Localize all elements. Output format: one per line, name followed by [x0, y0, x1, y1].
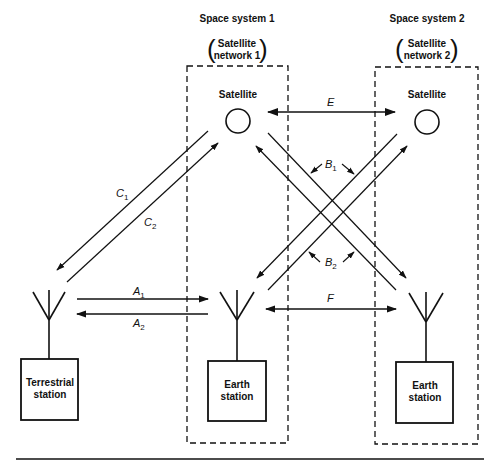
b2-pointer-right — [343, 252, 354, 262]
path-c2-label: C2 — [144, 216, 156, 231]
terrestrial-antenna-icon — [33, 290, 65, 359]
subtitle-line-2: network 2 — [404, 50, 451, 62]
earth-station-1-label: Earth station — [221, 379, 254, 403]
subscript: 2 — [140, 323, 144, 332]
earth-station-2-antenna-icon — [409, 292, 443, 362]
path-cross-4-arrow — [268, 146, 407, 290]
label-line-2: station — [409, 392, 442, 404]
subscript: 2 — [152, 222, 156, 231]
label-line-2: station — [221, 391, 254, 403]
close-paren-1: ) — [259, 36, 268, 62]
subtitle-line-2: network 1 — [214, 50, 261, 62]
subtitle-line-1: Satellite — [404, 38, 451, 50]
space-system-2-title: Space system 2 — [389, 13, 464, 25]
terrestrial-station-label: Terrestrial station — [26, 377, 74, 401]
subscript: 1 — [332, 164, 336, 173]
letter: C — [144, 216, 152, 228]
path-c2-arrow — [67, 143, 218, 282]
satellite-1-icon — [226, 109, 250, 133]
satellite-2-icon — [415, 110, 439, 134]
path-b2-label: B2 — [325, 256, 337, 271]
b1-pointer-right — [342, 164, 354, 174]
label-line-1: Terrestrial — [26, 377, 74, 389]
path-b1-label: B1 — [325, 158, 337, 173]
path-e-label: E — [327, 96, 334, 108]
subscript: 1 — [124, 193, 128, 202]
path-a1-label: A1 — [133, 285, 145, 300]
label-line-2: station — [26, 389, 74, 401]
letter: C — [116, 187, 124, 199]
earth-station-2-label: Earth station — [409, 380, 442, 404]
path-cross-1-arrow — [268, 133, 406, 278]
close-paren-2: ) — [450, 36, 459, 62]
b1-pointer-left — [311, 164, 322, 173]
label-line-1: Earth — [409, 380, 442, 392]
path-c1-label: C1 — [116, 187, 128, 202]
label-line-1: Earth — [221, 379, 254, 391]
path-a2-label: A2 — [133, 317, 145, 332]
subscript: 1 — [140, 291, 144, 300]
path-c1-arrow — [57, 131, 208, 270]
space-system-1-subtitle: Satellite network 1 — [214, 38, 261, 62]
satellite-2-label: Satellite — [408, 89, 446, 101]
subtitle-line-1: Satellite — [214, 38, 261, 50]
path-f-label: F — [327, 292, 334, 304]
earth-station-1-antenna-icon — [220, 290, 254, 361]
space-system-2-subtitle: Satellite network 2 — [404, 38, 451, 62]
diagram-canvas: Space system 1 Space system 2 ( Satellit… — [0, 0, 493, 462]
subscript: 2 — [332, 262, 336, 271]
space-system-1-title: Space system 1 — [199, 13, 274, 25]
open-paren-2: ( — [395, 36, 404, 62]
b2-pointer-left — [309, 252, 320, 262]
satellite-1-label: Satellite — [219, 89, 257, 101]
